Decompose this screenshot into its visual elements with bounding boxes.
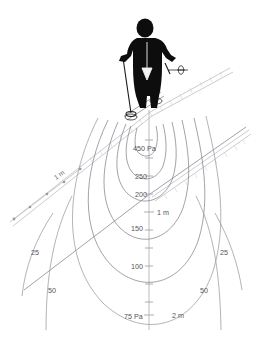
contour-label-25-right: 25 [220, 248, 228, 257]
contour-label-250: 250 [135, 172, 147, 181]
contour-label-25-left: 25 [31, 248, 39, 257]
stress-contour-figure: 1 m [0, 0, 257, 338]
contour-label-100: 100 [131, 262, 143, 271]
contour-label-50-left: 50 [48, 286, 56, 295]
contour-label-150: 150 [131, 224, 143, 233]
depth-label-2m: 2 m [172, 311, 184, 320]
contour-label-450: 450 Pa [133, 144, 156, 153]
depth-label-1m: 1 m [157, 208, 169, 217]
contour-label-75: 75 Pa [124, 312, 143, 321]
contour-label-200: 200 [135, 190, 147, 199]
contour-label-50-right: 50 [200, 286, 208, 295]
